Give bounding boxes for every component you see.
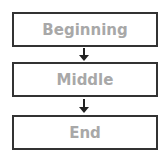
node-label: End [69, 124, 101, 142]
node-end: End [12, 115, 158, 150]
node-label: Beginning [42, 21, 127, 39]
arrow-down-icon [83, 99, 85, 108]
arrow-down-icon [83, 48, 85, 56]
node-label: Middle [57, 71, 114, 89]
node-middle: Middle [12, 62, 158, 97]
node-beginning: Beginning [12, 12, 158, 47]
